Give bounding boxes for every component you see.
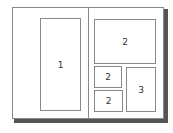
- panel-label: 1: [58, 60, 64, 70]
- page-divider: [88, 7, 89, 119]
- panel-1: 1: [40, 18, 81, 111]
- panel-label: 2: [105, 72, 111, 82]
- panel-label: 2: [122, 37, 128, 47]
- panel-2-small-bottom: 2: [94, 90, 123, 112]
- panel-2-small-top: 2: [94, 66, 122, 88]
- panel-label: 3: [138, 85, 144, 95]
- panel-2-large: 2: [94, 19, 156, 64]
- panel-3: 3: [126, 67, 156, 112]
- panel-label: 2: [106, 96, 112, 106]
